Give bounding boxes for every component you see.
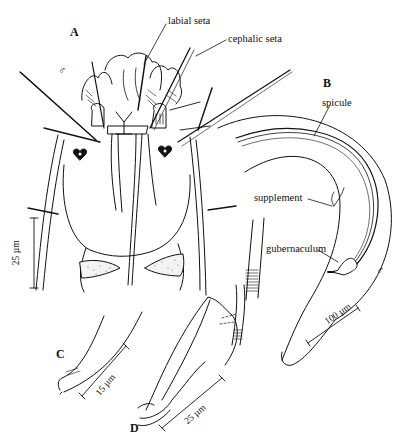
annotation-supplement: supplement (254, 193, 302, 204)
annotation-cephalic-seta: cephalic seta (228, 34, 282, 45)
panel-b-tail-drawing (218, 105, 391, 365)
male-symbol-a: ♂ (58, 65, 66, 76)
panel-label-d: D (130, 422, 139, 434)
annotation-labial-seta: labial seta (168, 16, 210, 27)
annotation-spicule: spicule (322, 98, 352, 109)
scale-bar-label-a: 25 µm (12, 240, 22, 265)
panel-label-a: A (70, 26, 79, 38)
annotation-gubernaculum: gubernaculum (266, 244, 326, 255)
panel-label-c: C (56, 348, 65, 360)
panel-label-b: B (323, 77, 331, 89)
male-symbol-b: ♂ (376, 265, 384, 276)
